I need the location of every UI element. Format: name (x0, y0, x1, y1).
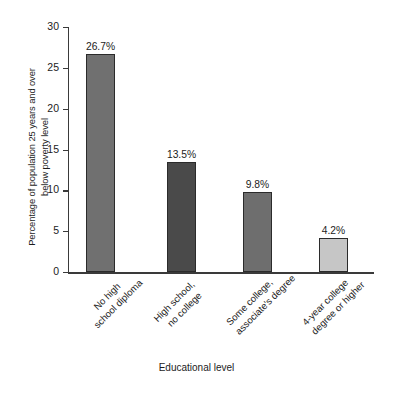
x-category-label-no-high-school-diploma: No high school diploma (81, 280, 132, 331)
y-tick-label-15: 15 (47, 143, 59, 155)
x-axis-title: Educational level (0, 362, 393, 373)
y-tick-30: 30 (63, 27, 68, 28)
y-axis-line (68, 27, 69, 272)
bar-value-label: 26.7% (86, 41, 115, 52)
y-tick-label-25: 25 (47, 61, 59, 73)
plot-area: 0 5 10 15 20 25 30 26.7% 13.5% 9.8% (68, 27, 374, 272)
y-tick-25: 25 (63, 68, 68, 69)
y-tick-10: 10 (63, 190, 68, 191)
y-tick-0: 0 (63, 272, 68, 273)
bar-value-label: 4.2% (322, 225, 345, 236)
y-tick-15: 15 (63, 150, 68, 151)
y-tick-20: 20 (63, 109, 68, 110)
y-axis-title-line-1: Percentage of population 25 years and ov… (25, 68, 38, 246)
x-category-label-some-college-associates-degree: Some college, associate's degree (223, 280, 280, 337)
bar-4-year-college-degree-or-higher[interactable]: 4.2% (319, 238, 348, 272)
bar-value-label: 13.5% (167, 149, 196, 160)
y-tick-label-10: 10 (47, 183, 59, 195)
x-category-label-high-school-no-college: High school, no college (151, 280, 205, 334)
bar-some-college-associates-degree[interactable]: 9.8% (243, 192, 272, 272)
x-category-label-4-year-college-degree-or-higher: 4-year college degree or higher (299, 280, 356, 337)
bar-chart: Percentage of population 25 years and ov… (0, 0, 393, 393)
y-tick-5: 5 (63, 231, 68, 232)
x-axis-line (68, 272, 374, 274)
bar-no-high-school-diploma[interactable]: 26.7% (86, 54, 115, 272)
bar-value-label: 9.8% (246, 179, 269, 190)
y-tick-label-20: 20 (47, 102, 59, 114)
y-tick-label-0: 0 (53, 265, 59, 277)
bar-high-school-no-college[interactable]: 13.5% (167, 162, 196, 272)
y-tick-label-5: 5 (53, 224, 59, 236)
y-tick-label-30: 30 (47, 20, 59, 32)
